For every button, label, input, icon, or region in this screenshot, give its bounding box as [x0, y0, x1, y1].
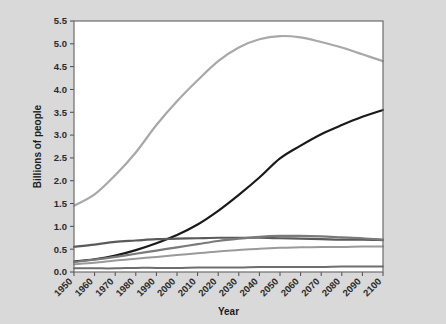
- y-tick-label: 1.0: [54, 221, 67, 232]
- plot-area-background: [74, 21, 383, 272]
- y-tick-label: 0.5: [54, 244, 68, 255]
- population-line-chart: 0.00.51.01.52.02.53.03.54.04.55.05.5 195…: [0, 0, 446, 324]
- y-tick-label: 5.5: [54, 15, 68, 26]
- y-tick-label: 5.0: [54, 38, 67, 49]
- y-tick-label: 4.5: [54, 61, 68, 72]
- y-tick-label: 2.5: [54, 152, 68, 163]
- y-tick-label: 3.0: [54, 129, 67, 140]
- y-tick-label: 3.5: [54, 107, 68, 118]
- chart-figure: 0.00.51.01.52.02.53.03.54.04.55.05.5 195…: [0, 0, 446, 324]
- y-tick-label: 1.5: [54, 198, 68, 209]
- x-axis-title: Year: [218, 306, 239, 317]
- y-tick-label: 0.0: [54, 266, 67, 277]
- y-tick-label: 2.0: [54, 175, 67, 186]
- y-tick-label: 4.0: [54, 84, 67, 95]
- y-axis-title: Billions of people: [32, 104, 43, 188]
